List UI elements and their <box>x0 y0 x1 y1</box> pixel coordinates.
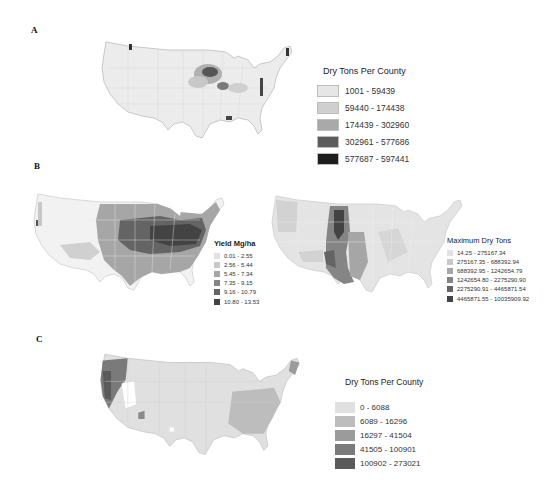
yield-map-b <box>30 190 230 300</box>
legend-item: 688392.95 - 1242654.79 <box>447 266 529 275</box>
legend-item: 100902 - 273021 <box>335 456 423 470</box>
dry-tons-per-county-map-c <box>96 350 306 465</box>
legend-item: 2.56 - 5.44 <box>214 260 259 269</box>
legend-item: 16297 - 41504 <box>335 428 423 442</box>
dry-tons-per-county-map-a <box>98 38 298 148</box>
legend-swatch <box>317 153 339 165</box>
legend-item: 0.01 - 2.55 <box>214 251 259 260</box>
legend-title: Dry Tons Per County <box>335 377 423 387</box>
legend-swatch <box>335 416 355 427</box>
legend-item: 9.16 - 10.79 <box>214 288 259 297</box>
legend-item: 5.45 - 7.34 <box>214 269 259 278</box>
panel-label-a: A <box>31 25 38 35</box>
legend-item: 2275290.91 - 4465871.54 <box>447 285 529 294</box>
legend-title: Maximum Dry Tons <box>447 236 529 245</box>
legend-item: 302961 - 577686 <box>317 133 409 150</box>
legend-swatch <box>335 458 355 469</box>
legend-item: 59440 - 174438 <box>317 99 409 116</box>
legend-swatch <box>447 286 453 292</box>
legend-swatch <box>317 119 339 131</box>
panel-label-c: C <box>36 334 43 344</box>
legend-swatch <box>317 102 339 114</box>
legend-item: 14.25 - 275167.34 <box>447 248 529 257</box>
legend-swatch <box>214 262 220 268</box>
legend-title: Dry Tons Per County <box>317 66 409 76</box>
panel-label-b: B <box>34 161 40 171</box>
legend-swatch <box>335 430 355 441</box>
legend-swatch <box>335 444 355 455</box>
legend-item: 4465871.55 - 10035909.92 <box>447 294 529 303</box>
legend-swatch <box>447 277 453 283</box>
legend-c: Dry Tons Per County 0 - 6088 6089 - 1629… <box>335 377 423 470</box>
legend-swatch <box>317 136 339 148</box>
legend-swatch <box>447 250 453 256</box>
legend-item: 10.80 - 13.53 <box>214 297 259 306</box>
legend-swatch <box>335 402 355 413</box>
maximum-dry-tons-map-b <box>268 192 468 302</box>
legend-swatch <box>214 280 220 286</box>
legend-item: 577687 - 597441 <box>317 150 409 167</box>
legend-swatch <box>214 253 220 259</box>
legend-item: 174439 - 302960 <box>317 116 409 133</box>
legend-item: 1001 - 59439 <box>317 82 409 99</box>
legend-swatch <box>214 271 220 277</box>
legend-swatch <box>214 299 220 305</box>
legend-swatch <box>317 85 339 97</box>
legend-a: Dry Tons Per County 1001 - 59439 59440 -… <box>317 66 409 167</box>
legend-yield: Yield Mg/ha 0.01 - 2.55 2.56 - 5.44 5.45… <box>214 239 259 306</box>
legend-swatch <box>447 268 453 274</box>
legend-item: 41505 - 100901 <box>335 442 423 456</box>
legend-item: 275167.35 - 688392.94 <box>447 257 529 266</box>
legend-item: 0 - 6088 <box>335 400 423 414</box>
legend-swatch <box>447 259 453 265</box>
legend-swatch <box>214 289 220 295</box>
legend-swatch <box>447 296 453 302</box>
legend-title: Yield Mg/ha <box>214 239 259 248</box>
legend-item: 1242654.80 - 2275290.90 <box>447 276 529 285</box>
legend-item: 6089 - 16296 <box>335 414 423 428</box>
legend-maximum-dry-tons: Maximum Dry Tons 14.25 - 275167.34 27516… <box>447 236 529 303</box>
legend-item: 7.35 - 9.15 <box>214 279 259 288</box>
